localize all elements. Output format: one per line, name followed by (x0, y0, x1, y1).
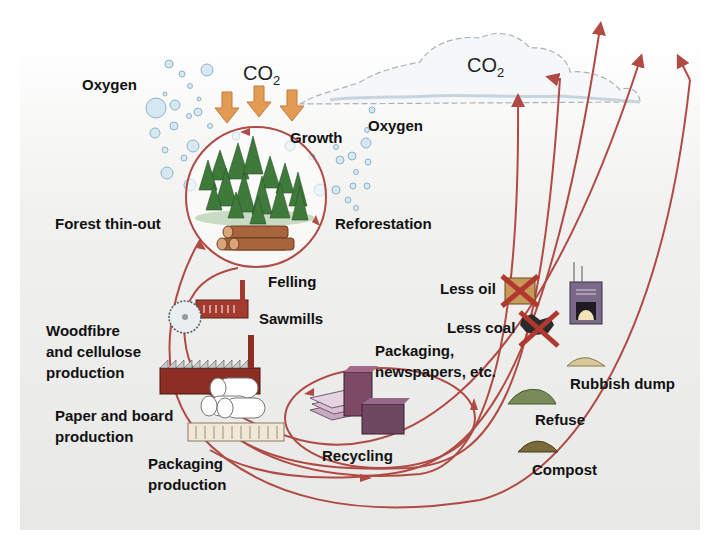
label-forest-thin-out: Forest thin-out (55, 215, 161, 232)
label-recycling: Recycling (322, 447, 393, 464)
carbon-cycle-diagram: Oxygen CO2 Growth Oxygen CO2 Forest thin… (0, 0, 721, 550)
label-woodfibre-1: Woodfibre (46, 322, 120, 339)
label-woodfibre-3: production (46, 364, 124, 381)
paper-rolls-icon (201, 378, 265, 418)
label-felling: Felling (268, 273, 316, 290)
label-less-coal: Less coal (447, 319, 515, 336)
label-sawmills: Sawmills (259, 310, 323, 327)
logs-icon (217, 226, 294, 250)
label-reforestation: Reforestation (335, 215, 432, 232)
label-growth: Growth (290, 129, 343, 146)
label-packaging-newspapers-2: newspapers, etc. (375, 363, 496, 380)
label-packaging-newspapers-1: Packaging, (375, 342, 454, 359)
label-oxygen-right: Oxygen (368, 117, 423, 134)
label-woodfibre-2: and cellulose (46, 343, 141, 360)
label-compost: Compost (532, 461, 597, 478)
label-less-oil: Less oil (440, 280, 496, 297)
label-oxygen-left: Oxygen (82, 76, 137, 93)
pallet-icon (188, 423, 284, 441)
label-packaging-production-1: Packaging (148, 455, 223, 472)
label-paper-2: production (55, 428, 133, 445)
oil-barrel-crossed-icon (502, 276, 538, 306)
label-packaging-production-2: production (148, 476, 226, 493)
label-rubbish-dump: Rubbish dump (570, 375, 675, 392)
label-paper-1: Paper and board (55, 407, 173, 424)
label-refuse: Refuse (535, 411, 585, 428)
